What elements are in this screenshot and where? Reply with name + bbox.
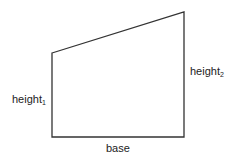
base-label: base (106, 143, 130, 154)
trapezoid-diagram (0, 0, 240, 162)
trapezoid-shape (52, 12, 184, 137)
height1-label: height1 (12, 94, 46, 105)
height2-label: height2 (190, 66, 224, 77)
